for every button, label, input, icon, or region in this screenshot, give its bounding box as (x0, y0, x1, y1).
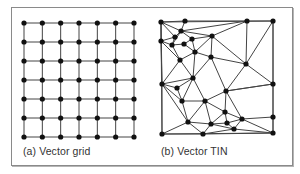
grid-node (40, 134, 45, 139)
tin-node (182, 18, 187, 23)
tin-node (169, 42, 174, 47)
tin-edge (226, 64, 246, 91)
tin-edge (211, 112, 225, 124)
grid-node (95, 39, 100, 44)
tin-edge (246, 64, 273, 84)
grid-node (95, 96, 100, 101)
grid-node (76, 58, 81, 63)
tin-edge (193, 57, 211, 78)
tin-node (222, 109, 227, 114)
grid-node (131, 20, 136, 25)
grid-node (113, 39, 118, 44)
tin-node (185, 119, 190, 124)
tin-edge (226, 84, 273, 91)
tin-node (190, 75, 195, 80)
tin-edge (205, 91, 226, 101)
caption-vector-grid: (a) Vector grid (23, 145, 90, 157)
tin-node (202, 98, 207, 103)
grid-node (113, 77, 118, 82)
grid-node (131, 77, 136, 82)
tin-edge (162, 84, 188, 122)
tin-edge (246, 21, 247, 64)
tin-edge (246, 21, 273, 64)
tin-node (209, 33, 214, 38)
grid-node (40, 39, 45, 44)
grid-node (95, 20, 100, 25)
tin-node (158, 19, 163, 24)
grid-node (131, 58, 136, 63)
grid-node (21, 20, 26, 25)
tin-edge (242, 119, 273, 133)
grid-node (113, 20, 118, 25)
tin-node (158, 38, 163, 43)
tin-node (192, 49, 197, 54)
grid-node (113, 58, 118, 63)
tin-edge (161, 22, 175, 37)
grid-node (21, 96, 26, 101)
grid-node (21, 39, 26, 44)
grid-node (76, 134, 81, 139)
tin-node (223, 88, 228, 93)
tin-edge (242, 117, 273, 119)
grid-node (40, 115, 45, 120)
grid-node (76, 77, 81, 82)
tin-node (244, 18, 249, 23)
grid-node (95, 115, 100, 120)
grid-node (40, 77, 45, 82)
tin-edge (188, 122, 203, 134)
grid-node (21, 134, 26, 139)
tin-node (243, 61, 248, 66)
tin-edge (162, 60, 180, 84)
tin-edge (234, 129, 273, 133)
tin-node (208, 121, 213, 126)
grid-node (76, 20, 81, 25)
tin-node (224, 120, 229, 125)
tin-node (270, 18, 275, 23)
grid-node (131, 115, 136, 120)
tin-edge (182, 101, 188, 122)
tin-edge (180, 60, 193, 78)
vector-grid-diagram (21, 20, 136, 139)
grid-node (131, 39, 136, 44)
grid-node (76, 115, 81, 120)
tin-node (179, 98, 184, 103)
grid-node (21, 115, 26, 120)
tin-edge (181, 21, 247, 31)
tin-node (189, 36, 194, 41)
tin-node (231, 126, 236, 131)
grid-node (76, 96, 81, 101)
grid-node (76, 39, 81, 44)
tin-node (174, 85, 179, 90)
grid-node (21, 77, 26, 82)
tin-node (270, 81, 275, 86)
grid-node (113, 115, 118, 120)
tin-edge (226, 91, 242, 119)
grid-node (40, 58, 45, 63)
tin-edge (211, 57, 246, 64)
grid-node (95, 58, 100, 63)
tin-edge (188, 101, 205, 122)
tin-edge (193, 78, 205, 101)
grid-node (113, 96, 118, 101)
grid-node (58, 20, 63, 25)
tin-node (270, 114, 275, 119)
grid-node (95, 77, 100, 82)
tin-edge (193, 52, 195, 78)
tin-node (178, 28, 183, 33)
tin-edge (181, 31, 212, 36)
grid-node (58, 77, 63, 82)
tin-node (208, 54, 213, 59)
tin-edge (205, 101, 211, 124)
grid-node (40, 96, 45, 101)
grid-node (131, 96, 136, 101)
grid-node (58, 115, 63, 120)
tin-node (200, 131, 205, 136)
tin-node (159, 81, 164, 86)
tin-node (181, 41, 186, 46)
tin-node (177, 57, 182, 62)
tin-edge (211, 36, 212, 57)
grid-node (95, 134, 100, 139)
tin-edge (188, 122, 211, 124)
tin-edge (212, 36, 246, 64)
grid-node (131, 134, 136, 139)
